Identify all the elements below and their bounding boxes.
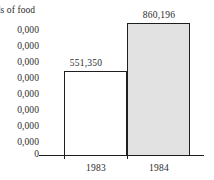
bar-value-1983: 551,350 <box>56 58 116 68</box>
bar-1983 <box>64 71 127 156</box>
x-tick-mark-1983 <box>64 155 65 159</box>
x-axis-label-1984: 1984 <box>129 163 189 173</box>
x-axis-label-1983: 1983 <box>66 163 126 173</box>
x-tick-mark-1984 <box>127 155 128 159</box>
bar-value-1984: 860,196 <box>124 10 194 20</box>
bar-chart: unds of food 0,000 0,000 0,000 0,000 0,0… <box>0 0 214 180</box>
bar-1984 <box>127 23 190 156</box>
plot-area: 551,350 860,196 1983 1984 <box>0 0 214 180</box>
